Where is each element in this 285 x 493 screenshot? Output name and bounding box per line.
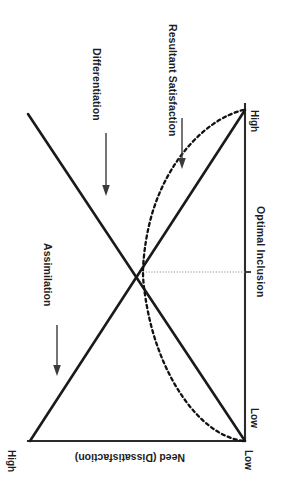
resultant-satisfaction-curve: [143, 110, 243, 441]
figure-root: Resultant Satisfaction Differentiation A…: [0, 0, 285, 493]
category-axis-high-tick-label: High: [249, 110, 259, 132]
assimilation-annotation-arrow-head: [53, 365, 61, 376]
value-axis-high-tick-label: High: [6, 450, 16, 472]
resultant-annotation-arrow-head: [178, 158, 186, 169]
value-axis-title: Need (Dissatisfaction): [75, 453, 185, 464]
differentiation-annotation-arrow-head: [102, 185, 110, 196]
series-label-differentiation: Differentiation: [92, 48, 103, 121]
value-axis-low-tick-label: Low: [243, 450, 253, 470]
category-axis-title: Optimal Inclusion: [256, 206, 267, 298]
category-axis-low-tick-label: Low: [249, 408, 259, 428]
series-label-assimilation: Assimilation: [43, 243, 54, 307]
series-label-resultant-satisfaction: Resultant Satisfaction: [168, 24, 179, 136]
